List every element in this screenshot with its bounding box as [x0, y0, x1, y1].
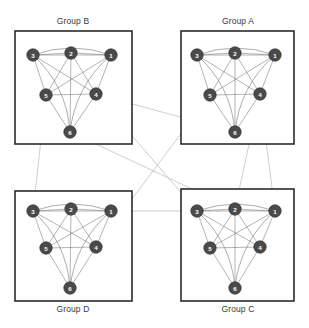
node-group-d-1[interactable]: 1	[105, 205, 117, 217]
panels-layer: 321546Group B321546Group A321546Group D3…	[15, 16, 294, 314]
node-label: 2	[69, 50, 73, 57]
panel-group-b: 321546Group B	[15, 16, 132, 144]
node-group-b-2[interactable]: 2	[65, 47, 77, 59]
node-label: 3	[195, 208, 199, 215]
node-label: 5	[208, 92, 212, 99]
node-label: 1	[109, 52, 113, 59]
panel-title-group-c: Group C	[222, 304, 255, 314]
node-group-d-5[interactable]: 5	[40, 242, 52, 254]
node-group-b-1[interactable]: 1	[105, 49, 117, 61]
node-group-d-2[interactable]: 2	[65, 203, 77, 215]
node-group-b-3[interactable]: 3	[27, 49, 39, 61]
node-label: 2	[233, 50, 237, 57]
panel-title-group-b: Group B	[57, 16, 90, 26]
node-label: 2	[69, 206, 73, 213]
node-label: 4	[258, 244, 262, 251]
node-label: 4	[258, 91, 262, 98]
node-label: 5	[44, 92, 48, 99]
node-group-b-4[interactable]: 4	[90, 88, 102, 100]
node-label: 6	[68, 129, 72, 136]
node-label: 6	[233, 129, 237, 136]
node-label: 1	[273, 52, 277, 59]
node-label: 1	[273, 208, 277, 215]
node-group-a-2[interactable]: 2	[229, 47, 241, 59]
node-label: 6	[233, 285, 237, 292]
node-label: 6	[68, 285, 72, 292]
node-label: 4	[94, 244, 98, 251]
node-group-c-2[interactable]: 2	[229, 203, 241, 215]
node-label: 4	[94, 91, 98, 98]
network-diagram-canvas: 321546Group B321546Group A321546Group D3…	[0, 0, 309, 328]
node-label: 1	[109, 208, 113, 215]
node-group-d-3[interactable]: 3	[27, 205, 39, 217]
panel-title-group-a: Group A	[222, 16, 254, 26]
node-label: 3	[195, 52, 199, 59]
panel-group-a: 321546Group A	[181, 16, 294, 144]
node-group-a-1[interactable]: 1	[269, 49, 281, 61]
node-label: 3	[31, 52, 35, 59]
node-group-c-6[interactable]: 6	[229, 282, 241, 294]
node-group-c-1[interactable]: 1	[269, 205, 281, 217]
node-label: 3	[31, 208, 35, 215]
node-label: 5	[44, 245, 48, 252]
node-group-a-5[interactable]: 5	[204, 89, 216, 101]
node-group-a-4[interactable]: 4	[254, 88, 266, 100]
panel-title-group-d: Group D	[57, 304, 90, 314]
node-group-b-6[interactable]: 6	[64, 126, 76, 138]
node-label: 2	[233, 206, 237, 213]
figure-root: 321546Group B321546Group A321546Group D3…	[0, 0, 309, 328]
node-group-b-5[interactable]: 5	[40, 89, 52, 101]
panel-group-d: 321546Group D	[15, 191, 132, 314]
node-group-c-5[interactable]: 5	[204, 242, 216, 254]
node-group-d-6[interactable]: 6	[64, 282, 76, 294]
node-group-d-4[interactable]: 4	[90, 241, 102, 253]
node-group-c-4[interactable]: 4	[254, 241, 266, 253]
panel-group-c: 321546Group C	[181, 189, 294, 314]
node-group-a-3[interactable]: 3	[191, 49, 203, 61]
node-group-c-3[interactable]: 3	[191, 205, 203, 217]
node-group-a-6[interactable]: 6	[229, 126, 241, 138]
node-label: 5	[208, 245, 212, 252]
